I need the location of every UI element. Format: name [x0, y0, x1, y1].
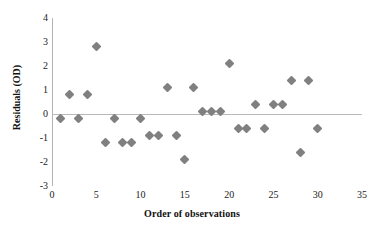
y-tick-label: 2 [32, 61, 48, 71]
data-point-marker [242, 123, 252, 133]
y-tick-label: 3 [32, 37, 48, 47]
data-point-marker [304, 75, 314, 85]
y-axis-title: Residuals (OD) [11, 38, 22, 158]
data-point-marker [74, 114, 84, 124]
data-point-marker [153, 131, 163, 141]
x-axis-tick-labels: 05101520253035 [0, 190, 384, 204]
y-tick-label: 4 [32, 13, 48, 23]
data-point-marker [313, 123, 323, 133]
residuals-scatter-chart: -3-2-101234 05101520253035 Order of obse… [0, 0, 384, 229]
data-point-marker [180, 155, 190, 165]
y-tick-label: -1 [32, 133, 48, 143]
data-point-marker [65, 90, 75, 100]
x-tick-label: 20 [218, 190, 240, 200]
data-point-marker [215, 107, 225, 117]
y-tick-label: -2 [32, 157, 48, 167]
x-axis-title: Order of observations [0, 208, 384, 219]
x-tick-label: 0 [41, 190, 63, 200]
data-point-marker [109, 114, 119, 124]
plot-area [52, 18, 362, 186]
y-tick-label: 0 [32, 109, 48, 119]
x-tick-label: 5 [85, 190, 107, 200]
data-point-marker [277, 99, 287, 109]
x-tick-label: 10 [130, 190, 152, 200]
data-point-marker [251, 99, 261, 109]
data-point-marker [136, 114, 146, 124]
data-point-marker [260, 123, 270, 133]
data-point-marker [286, 75, 296, 85]
y-tick-label: 1 [32, 85, 48, 95]
x-tick-label: 15 [174, 190, 196, 200]
data-point-marker [82, 90, 92, 100]
data-point-marker [127, 138, 137, 148]
data-point-marker [224, 59, 234, 69]
data-point-marker [91, 42, 101, 52]
x-tick-label: 25 [262, 190, 284, 200]
x-tick-label: 35 [351, 190, 373, 200]
data-point-marker [100, 138, 110, 148]
data-point-marker [56, 114, 66, 124]
data-point-marker [189, 83, 199, 93]
data-point-marker [162, 83, 172, 93]
data-point-marker [295, 147, 305, 157]
x-tick-label: 30 [307, 190, 329, 200]
data-point-marker [171, 131, 181, 141]
